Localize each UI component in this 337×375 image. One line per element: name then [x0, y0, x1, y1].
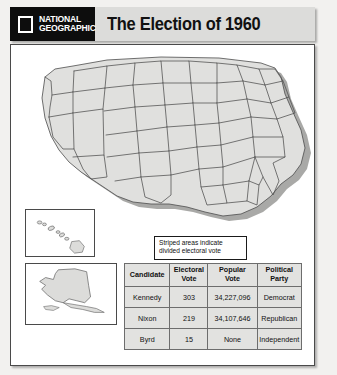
cell-popular-vote: 34,227,096 [208, 287, 257, 308]
aleutian-islands [63, 303, 104, 313]
logo-line-2: GEOGRAPHIC [39, 24, 96, 34]
header-electoral-bottom: Vote [181, 274, 196, 283]
alaska-inset-svg [26, 264, 116, 324]
table-row: Nixon 219 34,107,646 Republican [125, 308, 302, 329]
hawaii-islands [37, 221, 84, 253]
logo-text: NATIONAL GEOGRAPHIC [39, 15, 96, 34]
election-1960-infographic: NATIONAL GEOGRAPHIC The Election of 1960 [0, 0, 337, 375]
table-row: Kennedy 303 34,227,096 Democrat [125, 287, 302, 308]
header-popular-vote: Popular Vote [208, 264, 257, 287]
content-frame: Striped areas indicate divided electoral… [10, 44, 315, 366]
header-political-party: Political Party [257, 264, 301, 287]
hawaii-inset [25, 209, 95, 257]
cell-candidate: Nixon [125, 308, 170, 329]
page-title: The Election of 1960 [107, 7, 260, 41]
alaska-mainland [40, 269, 91, 303]
header-bar: NATIONAL GEOGRAPHIC The Election of 1960 [10, 7, 315, 41]
header-electoral-vote: Electoral Vote [170, 264, 208, 287]
cell-electoral-vote: 15 [170, 329, 208, 350]
header-candidate: Candidate [125, 264, 170, 287]
legend-line-1: Striped areas indicate [159, 239, 242, 247]
cell-popular-vote: 34,107,646 [208, 308, 257, 329]
cell-party: Democrat [257, 287, 301, 308]
cell-party: Republican [257, 308, 301, 329]
hawaii-inset-svg [26, 210, 94, 256]
cell-candidate: Kennedy [125, 287, 170, 308]
map-legend: Striped areas indicate divided electoral… [154, 236, 247, 260]
table-header-row: Candidate Electoral Vote Popular Vote Po… [125, 264, 302, 287]
cell-electoral-vote: 219 [170, 308, 208, 329]
national-geographic-logo: NATIONAL GEOGRAPHIC [10, 7, 95, 41]
header-party-bottom: Party [270, 274, 288, 283]
alaska-peninsula-tail [44, 306, 60, 311]
table-header: Candidate Electoral Vote Popular Vote Po… [125, 264, 302, 287]
header-candidate-top: Candidate [130, 270, 165, 279]
table-row: Byrd 15 None Independent [125, 329, 302, 350]
cell-popular-vote: None [208, 329, 257, 350]
cell-electoral-vote: 303 [170, 287, 208, 308]
table-body: Kennedy 303 34,227,096 Democrat Nixon 21… [125, 287, 302, 350]
cell-candidate: Byrd [125, 329, 170, 350]
national-geographic-rectangle-icon [18, 16, 33, 33]
cell-party: Independent [257, 329, 301, 350]
legend-line-2: divided electoral vote [159, 247, 242, 255]
election-results-table: Candidate Electoral Vote Popular Vote Po… [124, 263, 302, 350]
header-popular-bottom: Vote [225, 274, 240, 283]
map-landmass [42, 57, 305, 216]
alaska-inset [25, 263, 117, 325]
